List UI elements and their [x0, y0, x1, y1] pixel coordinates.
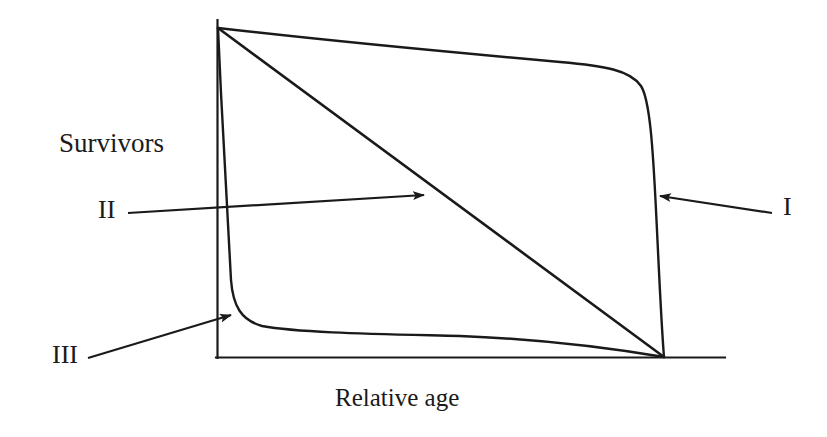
type-ii-curve — [218, 28, 664, 357]
curve-label-iii: III — [52, 342, 78, 368]
y-axis-label: Survivors — [59, 130, 164, 157]
callout-line-ii — [128, 195, 424, 213]
callout-line-iii — [88, 315, 231, 358]
axes — [216, 20, 725, 358]
curve-label-i: I — [783, 194, 792, 220]
survivorship-curve-figure: Survivors Relative age I II III — [0, 0, 827, 437]
x-axis-label: Relative age — [335, 385, 459, 410]
curve-label-ii: II — [98, 197, 115, 223]
figure-canvas — [0, 0, 827, 437]
callout-line-i — [660, 196, 772, 213]
